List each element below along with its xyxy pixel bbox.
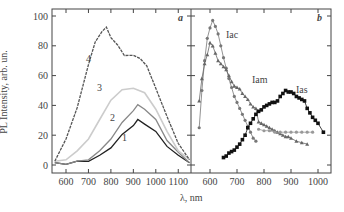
curve-label-1: 1 <box>122 132 127 143</box>
curve-label-iam: Iam <box>252 74 268 85</box>
panel-label-b: b <box>317 12 322 23</box>
plot-frame: 0204060801006007008009001000110060070080… <box>33 9 331 187</box>
svg-text:700: 700 <box>230 176 245 187</box>
pl-spectra-chart: 0204060801006007008009001000110060070080… <box>0 0 344 212</box>
svg-text:900: 900 <box>126 176 141 187</box>
curve-label-4: 4 <box>86 53 91 64</box>
svg-text:800: 800 <box>103 176 118 187</box>
svg-text:800: 800 <box>257 176 272 187</box>
panel-label-a: a <box>178 12 183 23</box>
svg-text:700: 700 <box>81 176 96 187</box>
svg-text:0: 0 <box>43 160 48 171</box>
curve-label-3: 3 <box>97 82 102 93</box>
svg-text:1000: 1000 <box>308 176 328 187</box>
svg-text:600: 600 <box>203 176 218 187</box>
svg-text:1000: 1000 <box>146 176 166 187</box>
curve-label-2: 2 <box>110 112 115 123</box>
svg-text:80: 80 <box>38 40 48 51</box>
svg-text:60: 60 <box>38 70 48 81</box>
curve-label-ias: Ias <box>296 84 308 95</box>
curve-label-iac: Iac <box>226 29 238 40</box>
x-axis-label: λ, nm <box>180 192 203 203</box>
plot-curves <box>55 19 325 164</box>
svg-text:40: 40 <box>38 100 48 111</box>
svg-text:100: 100 <box>33 11 48 22</box>
svg-text:900: 900 <box>284 176 299 187</box>
svg-text:20: 20 <box>38 130 48 141</box>
svg-text:1100: 1100 <box>168 176 188 187</box>
svg-text:600: 600 <box>59 176 74 187</box>
